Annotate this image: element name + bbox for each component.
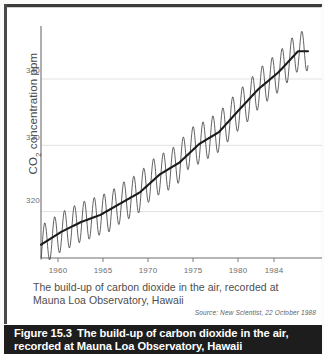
- x-axis-tick-label: 1980: [218, 266, 258, 275]
- x-axis-tick-label: 1984: [254, 266, 294, 275]
- x-axis-tick-label: 1975: [173, 266, 213, 275]
- figure-container: CO2 concentration ppm 340 330 320 1960 1…: [0, 0, 324, 354]
- x-axis-tick-label: 1970: [128, 266, 168, 275]
- x-axis-ticks: [58, 258, 274, 262]
- chart-plot-svg: [8, 10, 322, 278]
- co2-trend-series: [41, 51, 308, 245]
- figure-caption-line-2: recorded at Mauna Loa Observatory, Hawai…: [14, 340, 316, 353]
- x-axis-tick-label: 1960: [38, 266, 78, 275]
- chart-subcaption-line-2: Mauna Loa Observatory, Hawaii: [33, 294, 289, 307]
- grid-lines: [41, 79, 322, 212]
- co2-line-chart: CO2 concentration ppm 340 330 320 1960 1…: [8, 10, 322, 278]
- y-axis-tick-label: 340: [18, 66, 40, 75]
- chart-subcaption: The build-up of carbon dioxide in the ai…: [33, 281, 289, 306]
- y-axis-title: CO2 concentration ppm: [27, 39, 42, 189]
- x-axis-tick-label: 1965: [83, 266, 123, 275]
- y-axis-tick-label: 330: [18, 133, 40, 142]
- y-axis-tick-label: 320: [18, 196, 40, 205]
- figure-caption-text-1: The build-up of carbon dioxide in the ai…: [77, 327, 288, 339]
- chart-subcaption-line-1: The build-up of carbon dioxide in the ai…: [33, 281, 289, 294]
- chart-source-credit: Source: New Scientist, 22 October 1988: [195, 309, 316, 316]
- figure-number: Figure 15.3: [14, 327, 72, 339]
- figure-caption-bar: Figure 15.3The build-up of carbon dioxid…: [4, 325, 322, 354]
- figure-caption-line-1: Figure 15.3The build-up of carbon dioxid…: [14, 327, 316, 340]
